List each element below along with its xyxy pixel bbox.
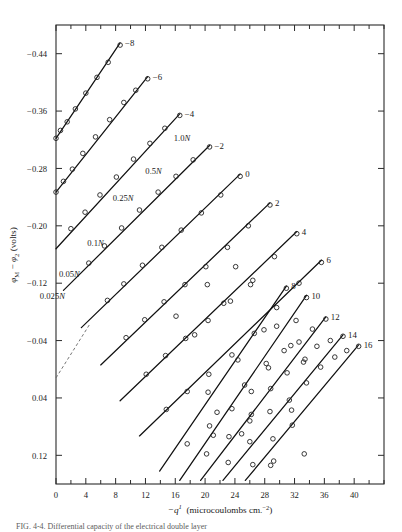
- scatter-point: [266, 366, 271, 371]
- data-point: [207, 372, 212, 377]
- series-end-label: 12: [331, 312, 340, 322]
- series-end-label: 14: [348, 330, 357, 340]
- series-end-label: 2: [275, 198, 279, 208]
- data-point: [251, 462, 256, 467]
- scatter-point: [248, 419, 253, 424]
- data-point: [249, 389, 254, 394]
- data-point: [328, 338, 333, 343]
- scatter-point: [268, 463, 273, 468]
- scatter-point: [248, 282, 253, 287]
- scatter-point: [289, 408, 294, 413]
- series-line: [56, 114, 180, 249]
- data-point: [114, 175, 119, 180]
- data-point: [122, 282, 127, 287]
- data-point: [333, 355, 338, 360]
- data-point: [230, 406, 235, 411]
- data-point: [282, 348, 287, 353]
- data-point: [81, 151, 86, 156]
- concentration-label: 1.0N: [174, 133, 192, 143]
- data-point: [107, 117, 112, 122]
- series-line: [160, 286, 287, 471]
- scatter-point: [205, 282, 210, 287]
- x-tick-label: 40: [350, 490, 359, 500]
- x-tick-label: 24: [231, 490, 240, 500]
- series-line: [63, 145, 209, 290]
- data-point: [271, 459, 276, 464]
- x-tick-label: 36: [320, 490, 329, 500]
- x-tick-label: 12: [141, 490, 150, 500]
- data-point: [318, 365, 323, 370]
- series-line: [56, 77, 148, 192]
- scatter-point: [262, 328, 267, 333]
- series-line: [180, 295, 307, 480]
- data-point: [225, 245, 230, 250]
- data-point: [98, 193, 103, 198]
- plot-frame: [56, 25, 384, 484]
- x-tick-label: 0: [54, 490, 58, 500]
- data-point: [124, 335, 129, 340]
- y-tick-label: −0.44: [27, 49, 48, 59]
- y-tick-label: −0.12: [27, 278, 47, 288]
- scatter-point: [192, 333, 197, 338]
- dashed-branch-line: [56, 323, 90, 378]
- x-axis-ticks: [56, 25, 384, 484]
- concentration-label: 0.05N: [59, 269, 81, 279]
- data-point: [272, 254, 277, 259]
- data-point: [148, 141, 153, 146]
- series-line: [223, 335, 343, 481]
- x-tick-labels: 0481216202428323640: [54, 490, 359, 500]
- data-point: [230, 353, 235, 358]
- x-tick-label: 20: [201, 490, 210, 500]
- x-tick-label: 16: [171, 490, 180, 500]
- y-tick-label: −0.36: [27, 106, 48, 116]
- x-tick-label: 32: [290, 490, 299, 500]
- series-end-label: −4: [185, 109, 195, 119]
- scatter-point: [174, 314, 179, 319]
- series-end-label: 4: [302, 227, 307, 237]
- series-end-label: −6: [153, 72, 163, 82]
- data-point: [274, 305, 279, 310]
- y-tick-label: −0.04: [27, 336, 48, 346]
- y-tick-label: 0.04: [32, 393, 48, 403]
- data-point: [83, 210, 88, 215]
- data-point: [315, 344, 320, 349]
- series-end-label: 0: [245, 169, 250, 179]
- data-point: [160, 245, 165, 250]
- data-point: [226, 460, 231, 465]
- data-point: [264, 361, 269, 366]
- series-end-label: 16: [364, 340, 373, 350]
- data-point: [248, 439, 253, 444]
- data-point: [156, 190, 161, 195]
- series-end-label: −8: [125, 38, 135, 48]
- data-point: [271, 437, 276, 442]
- data-point: [285, 371, 290, 376]
- data-point: [294, 318, 299, 323]
- data-point: [304, 381, 309, 386]
- data-point: [227, 434, 232, 439]
- scatter-point: [215, 410, 220, 415]
- series-end-label: 8: [291, 281, 296, 291]
- concentration-labels: 0.025N0.05N0.1N0.25N0.5N1.0N: [40, 133, 192, 301]
- y-axis-title: φM − φ2 (volts): [8, 227, 20, 282]
- data-point: [268, 409, 273, 414]
- x-tick-label: 8: [113, 490, 117, 500]
- series-line: [245, 345, 358, 481]
- scatter-point: [233, 264, 238, 269]
- scatter-extra-points: [174, 264, 308, 467]
- concentration-label: 0.25N: [113, 193, 135, 203]
- data-point: [310, 327, 315, 332]
- dashed-extrapolation-line: [56, 323, 90, 378]
- figure-container: −8−6−4−20246810121416 0.025N0.05N0.1N0.2…: [0, 0, 402, 532]
- series-line: [81, 174, 240, 327]
- y-tick-label: −0.20: [27, 221, 47, 231]
- scatter-point: [206, 390, 211, 395]
- data-point: [140, 263, 145, 268]
- data-point: [185, 442, 190, 447]
- series-end-label: −2: [215, 141, 224, 151]
- scatter-point: [239, 432, 244, 437]
- y-tick-label: −0.28: [27, 164, 47, 174]
- data-point: [297, 340, 302, 345]
- series-end-label: 6: [326, 255, 331, 265]
- data-point: [274, 324, 279, 329]
- data-point: [69, 226, 74, 231]
